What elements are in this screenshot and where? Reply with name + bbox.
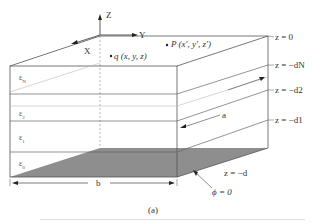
point-p xyxy=(166,44,168,46)
x-arrow-icon xyxy=(71,40,78,44)
point-q-label: q (x, y, z) xyxy=(114,51,147,61)
boundary-dN: z = −dN xyxy=(275,60,305,70)
z-axis-label: Z xyxy=(106,10,112,20)
ground-potential-label: ϕ = 0 xyxy=(212,187,232,197)
divider xyxy=(40,219,305,220)
point-p-label: P (x′, y′, z′) xyxy=(171,39,211,49)
layer-label-n: εN xyxy=(19,73,26,87)
dimension-a: a xyxy=(222,110,226,120)
x-axis-label: X xyxy=(84,46,91,56)
point-q xyxy=(110,55,112,57)
z-arrow-icon xyxy=(98,14,102,20)
boundary-d2: z = −d2 xyxy=(275,85,303,95)
dimension-b: b xyxy=(96,178,101,188)
figure-caption: (a) xyxy=(148,205,158,215)
y-axis-label: Y xyxy=(139,30,146,40)
boundary-d1: z = −d1 xyxy=(275,115,303,125)
x-axis xyxy=(75,35,100,43)
layer-label-1: ε1 xyxy=(19,133,25,147)
layer-label-0: ε0 xyxy=(19,159,25,173)
layered-box-diagram xyxy=(0,0,314,224)
boundary-d: z = −d xyxy=(224,168,247,178)
layer-label-2: ε2 xyxy=(19,109,25,123)
boundary-z0: z = 0 xyxy=(275,32,293,42)
